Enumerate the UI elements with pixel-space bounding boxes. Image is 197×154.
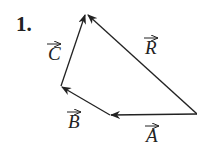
vector-c [61, 15, 85, 86]
label-a: A [146, 125, 158, 147]
label-c: C [48, 43, 61, 65]
label-r: R [145, 37, 157, 59]
label-b: B [68, 111, 80, 133]
vector-a [111, 114, 197, 115]
vector-r [88, 15, 197, 114]
vector-diagram [0, 0, 197, 154]
